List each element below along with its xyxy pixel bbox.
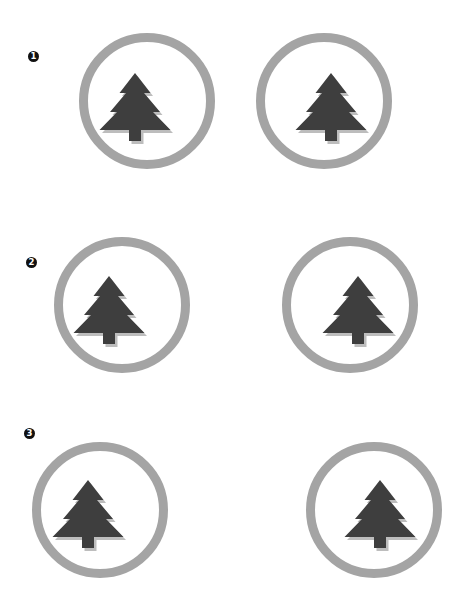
pine-tree-icon (250, 27, 398, 175)
pine-tree-icon (48, 231, 196, 379)
tree-badge-row2-left (48, 231, 196, 379)
pine-tree-icon (300, 436, 448, 584)
tree-badge-row2-right (276, 231, 424, 379)
step-marker-1: 1 (28, 51, 39, 62)
tree-badge-comparison: 1 2 3 (0, 0, 469, 604)
tree-badge-row1-left (73, 27, 221, 175)
pine-tree-icon (26, 436, 174, 584)
pine-tree-icon (276, 231, 424, 379)
tree-badge-row3-left (26, 436, 174, 584)
step-marker-2: 2 (26, 257, 37, 268)
pine-tree-icon (73, 27, 221, 175)
tree-badge-row3-right (300, 436, 448, 584)
tree-badge-row1-right (250, 27, 398, 175)
